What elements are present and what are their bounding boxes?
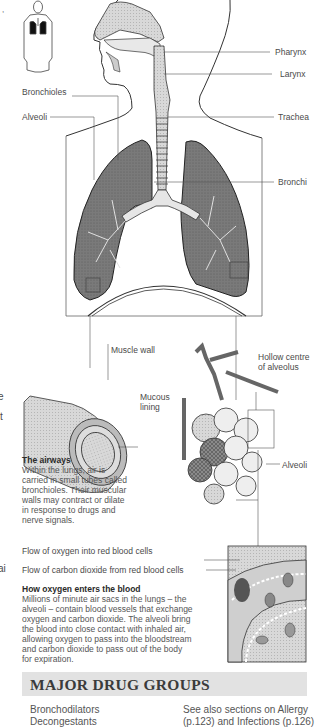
label-pharynx: Pharynx xyxy=(275,47,306,57)
caption-oxygen-line: allowing oxygen to pass into the bloodst… xyxy=(22,634,222,644)
caption-airways-line: nerve signals. xyxy=(22,515,142,525)
see-also-line: See also sections on Allergy xyxy=(183,704,314,716)
caption-airways-line: carried in small tubes called xyxy=(22,475,142,485)
caption-oxygen-line: alveoli – contain blood vessels that exc… xyxy=(22,604,222,614)
caption-airways-title: The airways xyxy=(22,455,142,465)
label-mucous-line2: lining xyxy=(140,402,160,412)
caption-oxygen-line: and carbon dioxide to pass out of the bo… xyxy=(22,644,222,654)
label-alveoli-left: Alveoli xyxy=(22,112,47,122)
left-lung xyxy=(74,140,152,300)
caption-airways-line: in response to drugs and xyxy=(22,505,142,515)
caption-oxygen-line: Millions of minute air sacs in the lungs… xyxy=(22,594,222,604)
label-oxygen-flow: Flow of oxygen into red blood cells xyxy=(22,546,152,556)
margin-fragment: ai xyxy=(0,564,6,574)
caption-oxygen-title: How oxygen enters the blood xyxy=(22,584,222,594)
margin-fragment: , xyxy=(2,5,4,14)
right-lung xyxy=(181,141,249,297)
label-muscle-wall: Muscle wall xyxy=(111,345,155,355)
label-bronchi: Bronchi xyxy=(278,177,307,187)
caption-airways: The airways Within the lungs, air is car… xyxy=(22,455,142,525)
margin-fragment: t xyxy=(0,412,3,422)
label-co2-flow: Flow of carbon dioxide from red blood ce… xyxy=(22,565,184,575)
caption-airways-line: Within the lungs, air is xyxy=(22,465,142,475)
caption-oxygen-line: the blood into close contact with inhale… xyxy=(22,624,222,634)
caption-airways-line: walls may contract or dilate xyxy=(22,495,142,505)
label-alveoli-right: Alveoli xyxy=(282,460,307,470)
label-mucous-line1: Mucous xyxy=(140,392,170,402)
see-also-note: See also sections on Allergy (p.123) and… xyxy=(183,704,314,727)
caption-airways-line: bronchioles. Their muscular xyxy=(22,485,142,495)
margin-fragment: e xyxy=(0,392,4,402)
label-trachea: Trachea xyxy=(278,112,309,122)
caption-oxygen-line: oxygen and carbon dioxide. The alveoli b… xyxy=(22,614,222,624)
label-hollow-centre: Hollow centre of alveolus xyxy=(258,352,310,372)
drug-group-item[interactable]: Bronchodilators xyxy=(30,704,99,716)
caption-oxygen-line: for expiration. xyxy=(22,654,222,664)
drug-group-item[interactable]: Decongestants xyxy=(30,716,99,727)
label-hollow-line2: of alveolus xyxy=(258,362,299,372)
drug-groups-heading: MAJOR DRUG GROUPS xyxy=(30,676,210,694)
body-thumbnail-icon xyxy=(24,1,52,72)
caption-oxygen: How oxygen enters the blood Millions of … xyxy=(22,584,222,664)
label-larynx: Larynx xyxy=(280,69,306,79)
drug-groups-list: Bronchodilators Decongestants xyxy=(30,704,99,727)
label-mucous-lining: Mucous lining xyxy=(140,392,170,412)
label-bronchioles: Bronchioles xyxy=(22,87,66,97)
label-hollow-line1: Hollow centre xyxy=(258,352,310,362)
see-also-line: (p.123) and Infections (p.126) xyxy=(183,716,314,727)
